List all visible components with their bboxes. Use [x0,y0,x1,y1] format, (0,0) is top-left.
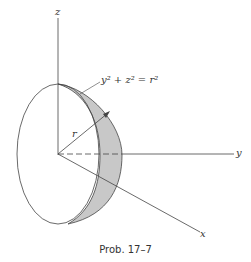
equation-leader [80,82,100,94]
x-axis-label: x [200,228,206,239]
z-axis-label: z [55,6,60,17]
equation-label: y² + z² = r² [101,74,158,85]
radius-label: r [72,128,77,139]
y-axis-label: y [236,147,242,158]
figure-caption: Prob. 17–7 [0,244,251,255]
hemisphere-diagram [0,0,251,262]
